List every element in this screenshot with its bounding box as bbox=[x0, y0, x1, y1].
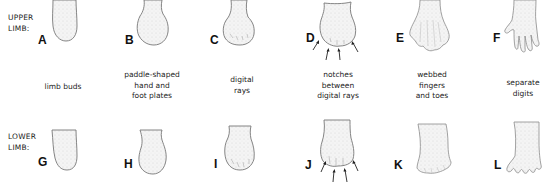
caption-line: hand and bbox=[124, 81, 180, 92]
upper-limb-label-line2: LIMB: bbox=[8, 23, 34, 34]
lower-limb-label-line1: LOWER bbox=[8, 131, 36, 142]
caption-separate-digits: separate digits bbox=[506, 78, 539, 99]
caption-line: digital rays bbox=[317, 91, 359, 102]
separate-digits-upper-drawing bbox=[504, 0, 548, 54]
panel-letter-j: J bbox=[305, 158, 312, 172]
lower-limb-label-line2: LIMB: bbox=[8, 142, 36, 153]
notch-arrows-lower bbox=[318, 158, 368, 184]
webbed-upper-drawing bbox=[407, 0, 453, 54]
panel-letter-g: G bbox=[38, 155, 47, 169]
caption-line: paddle-shaped bbox=[124, 70, 180, 81]
caption-line: fingers bbox=[416, 81, 449, 92]
caption-line: limb buds bbox=[45, 82, 82, 93]
separate-digits-lower-drawing bbox=[504, 122, 546, 176]
webbed-lower-drawing bbox=[416, 124, 454, 176]
panel-letter-i: I bbox=[214, 157, 217, 171]
limb-bud-upper-drawing bbox=[50, 0, 80, 44]
upper-limb-label-line1: UPPER bbox=[8, 12, 34, 23]
caption-limb-buds: limb buds bbox=[45, 82, 82, 93]
digital-rays-upper-drawing bbox=[221, 0, 257, 46]
caption-line: foot plates bbox=[124, 91, 180, 102]
panel-letter-f: F bbox=[493, 31, 500, 45]
caption-notches-between-digital-rays: notches between digital rays bbox=[317, 70, 359, 102]
caption-line: notches bbox=[317, 70, 359, 81]
upper-limb-label: UPPER LIMB: bbox=[8, 12, 34, 34]
paddle-lower-drawing bbox=[136, 130, 170, 176]
digital-rays-lower-drawing bbox=[223, 126, 257, 172]
caption-digital-rays: digital rays bbox=[230, 75, 253, 96]
caption-paddle-shaped-plates: paddle-shaped hand and foot plates bbox=[124, 70, 180, 102]
panel-letter-a: A bbox=[38, 33, 47, 47]
caption-line: digital bbox=[230, 75, 253, 86]
notch-arrows-upper bbox=[310, 38, 366, 62]
caption-line: separate bbox=[506, 78, 539, 89]
caption-line: digits bbox=[506, 89, 539, 100]
panel-letter-l: L bbox=[494, 158, 501, 172]
caption-line: webbed bbox=[416, 70, 449, 81]
caption-line: rays bbox=[230, 86, 253, 97]
panel-letter-h: H bbox=[124, 157, 133, 171]
caption-line: between bbox=[317, 81, 359, 92]
caption-line: and toes bbox=[416, 91, 449, 102]
panel-letter-b: B bbox=[125, 33, 134, 47]
limb-bud-lower-drawing bbox=[50, 130, 80, 172]
caption-webbed-fingers-and-toes: webbed fingers and toes bbox=[416, 70, 449, 102]
lower-limb-label: LOWER LIMB: bbox=[8, 131, 36, 153]
panel-letter-c: C bbox=[210, 33, 219, 47]
panel-letter-k: K bbox=[394, 158, 403, 172]
panel-letter-e: E bbox=[396, 31, 404, 45]
paddle-upper-drawing bbox=[135, 0, 171, 46]
